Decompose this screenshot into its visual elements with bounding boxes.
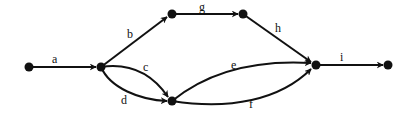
node-n5	[384, 61, 393, 70]
node-n3	[239, 10, 248, 19]
label-g: g	[199, 0, 205, 14]
node-n6	[168, 97, 177, 106]
label-i: i	[340, 50, 344, 64]
edge-b	[101, 17, 167, 67]
node-n2	[168, 10, 177, 19]
label-b: b	[127, 27, 133, 41]
node-n4	[312, 61, 321, 70]
label-e: e	[231, 58, 236, 72]
label-a: a	[52, 52, 58, 66]
label-c: c	[143, 60, 148, 74]
node-n1	[97, 63, 106, 72]
node-n0	[25, 63, 34, 72]
label-d: d	[121, 93, 127, 107]
label-f: f	[249, 97, 253, 111]
edge-e	[172, 62, 311, 101]
label-h: h	[275, 21, 281, 35]
graph-diagram: a b c d g h e f i	[0, 0, 413, 127]
